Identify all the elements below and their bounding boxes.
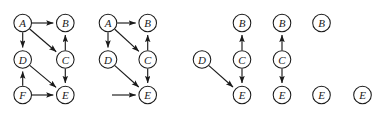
node-label-c: C bbox=[278, 54, 286, 66]
graph-node: B bbox=[313, 14, 331, 32]
node-label-b: B bbox=[144, 17, 151, 29]
graph-group: E bbox=[354, 86, 372, 104]
node-label-d: D bbox=[197, 54, 206, 66]
node-label-b: B bbox=[239, 17, 246, 29]
node-label-c: C bbox=[62, 54, 70, 66]
node-label-b: B bbox=[62, 17, 69, 29]
graph-node: B bbox=[273, 14, 291, 32]
node-label-c: C bbox=[238, 54, 246, 66]
graph-edge-a-to-c bbox=[30, 29, 56, 52]
graph-group: BE bbox=[313, 14, 331, 104]
node-label-e: E bbox=[278, 89, 286, 101]
node-label-e: E bbox=[358, 89, 366, 101]
graph-edge-a-to-c bbox=[115, 29, 139, 51]
graph-group: ABDCFE bbox=[14, 14, 74, 104]
graph-node: F bbox=[14, 86, 32, 104]
graph-node: E bbox=[139, 86, 157, 104]
graph-group: BCE bbox=[273, 14, 291, 104]
node-label-d: D bbox=[103, 54, 112, 66]
graph-figure: ABDCFEABDCEBDCEBCEBEE bbox=[0, 0, 384, 113]
graph-node: A bbox=[14, 14, 32, 32]
graph-node: E bbox=[57, 86, 75, 104]
graph-edge-d-to-e bbox=[115, 66, 139, 87]
graph-node: E bbox=[354, 86, 372, 104]
node-label-b: B bbox=[318, 17, 325, 29]
graph-node: E bbox=[273, 86, 291, 104]
graph-node: A bbox=[99, 14, 117, 32]
graph-edge-d-to-e bbox=[30, 65, 56, 87]
graph-node: C bbox=[273, 51, 291, 69]
graph-group: ABDCE bbox=[99, 14, 156, 104]
node-label-e: E bbox=[238, 89, 246, 101]
node-label-b: B bbox=[279, 17, 286, 29]
graph-node: B bbox=[233, 14, 251, 32]
graph-node: D bbox=[99, 51, 117, 69]
node-label-e: E bbox=[143, 89, 151, 101]
graph-edge-d-to-e bbox=[209, 66, 233, 87]
graph-canvas: ABDCFEABDCEBDCEBCEBEE bbox=[0, 0, 384, 113]
graph-node: C bbox=[57, 51, 75, 69]
graph-group: BDCE bbox=[193, 14, 251, 104]
graph-node: B bbox=[139, 14, 157, 32]
graph-node: C bbox=[139, 51, 157, 69]
node-label-f: F bbox=[18, 89, 26, 101]
graph-node: D bbox=[14, 51, 32, 69]
node-label-d: D bbox=[18, 54, 27, 66]
graph-node: E bbox=[233, 86, 251, 104]
node-label-c: C bbox=[144, 54, 152, 66]
graph-node: C bbox=[233, 51, 251, 69]
graph-node: E bbox=[313, 86, 331, 104]
node-label-e: E bbox=[317, 89, 325, 101]
node-label-a: A bbox=[104, 17, 112, 29]
graph-node: B bbox=[57, 14, 75, 32]
graph-node: D bbox=[193, 51, 211, 69]
node-label-e: E bbox=[61, 89, 69, 101]
node-label-a: A bbox=[18, 17, 26, 29]
